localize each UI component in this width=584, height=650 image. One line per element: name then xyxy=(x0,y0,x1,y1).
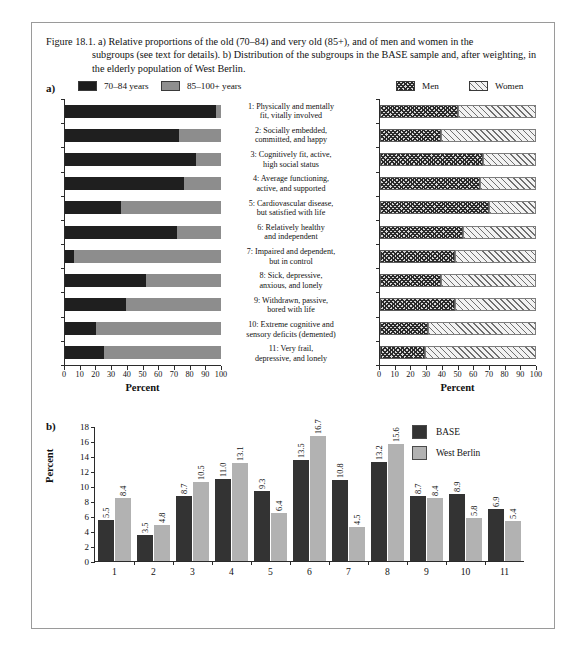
subgroup-label-text: 6: Relatively healthyand independent xyxy=(257,223,324,242)
bar-row xyxy=(65,293,221,317)
bar-group: 13.516.7 xyxy=(290,427,329,561)
x-tick-label: 10 xyxy=(76,370,84,379)
x-tick-label: 11 xyxy=(500,566,509,577)
subgroup-label-row: 4: Average functioning,active, and suppo… xyxy=(225,172,357,196)
bar-segment-70-84-years xyxy=(65,298,126,311)
x-tick xyxy=(173,561,174,565)
x-tick-label: 40 xyxy=(123,370,131,379)
bar-segment-women xyxy=(455,250,536,263)
subgroup-label-row: 2: Socially embedded,committed, and happ… xyxy=(225,123,357,147)
stacked-bar xyxy=(380,274,536,287)
y-tick-label: 16 xyxy=(69,437,89,447)
bar-group: 11.013.1 xyxy=(212,427,251,561)
stacked-bar xyxy=(380,346,536,359)
bar-base: 13.5 xyxy=(293,460,309,561)
stacked-bar xyxy=(380,226,536,239)
bar-value-label: 13.2 xyxy=(375,445,384,460)
bar-segment-men xyxy=(380,346,425,359)
bar-base: 5.5 xyxy=(98,520,114,561)
chart-sex-x-axis-title: Percent xyxy=(379,382,536,393)
bar-segment-men xyxy=(380,226,463,239)
chart-sex-composition: 0102030405060708090100 Percent xyxy=(361,99,536,379)
bar-row xyxy=(65,99,221,123)
x-tick xyxy=(290,561,291,565)
x-tick-label: 20 xyxy=(406,370,414,379)
bar-west-berlin: 6.4 xyxy=(271,513,287,561)
bar-segment-men xyxy=(380,129,441,142)
bar-value-label: 3.5 xyxy=(141,522,150,532)
bar-base: 10.8 xyxy=(332,480,348,561)
bar-west-berlin: 8.4 xyxy=(115,498,131,561)
bar-segment-women xyxy=(458,105,536,118)
legend-label-old: 70–84 years xyxy=(104,81,149,91)
bar-segment-men xyxy=(380,153,483,166)
subgroup-label-row: 9: Withdrawn, passive,bored with life xyxy=(225,293,357,317)
bar-segment-70-84-years xyxy=(65,129,179,142)
x-tick xyxy=(251,561,252,565)
bar-west-berlin: 13.1 xyxy=(232,463,248,561)
bar-west-berlin: 8.4 xyxy=(427,498,443,561)
y-tick-label: 10 xyxy=(69,482,89,492)
subgroup-label-row: 1: Physically and mentallyfit, vitally i… xyxy=(225,99,357,123)
bar-value-label: 5.4 xyxy=(509,508,518,518)
x-tick-label: 6 xyxy=(307,566,312,577)
bar-segment-85-100-years xyxy=(104,346,221,359)
bar-west-berlin: 4.8 xyxy=(154,525,170,561)
swatch-base-icon xyxy=(412,425,427,439)
bar-base: 8.9 xyxy=(449,494,465,561)
bar-row xyxy=(65,172,221,196)
x-tick-label: 80 xyxy=(186,370,194,379)
bar-group: 8.710.5 xyxy=(173,427,212,561)
bar-row xyxy=(65,317,221,341)
bar-value-label: 4.8 xyxy=(158,513,167,523)
subgroup-label-text: 8: Sick, depressive,anxious, and lonely xyxy=(259,271,322,290)
bar-west-berlin: 5.4 xyxy=(505,521,521,562)
panel-a: a) 70–84 years 85–100+ years Men Women xyxy=(32,78,554,408)
bar-row xyxy=(65,244,221,268)
stacked-bar xyxy=(65,105,221,118)
chart-subgroup-distribution: Percent 024681012141618 5.58.43.54.88.71… xyxy=(46,419,540,614)
legend-label-base: BASE xyxy=(436,427,460,437)
bar-segment-85-100-years xyxy=(216,105,221,118)
bar-base: 13.2 xyxy=(371,462,387,561)
swatch-very-old-icon xyxy=(161,81,180,91)
legend-label-west-berlin: West Berlin xyxy=(436,448,480,458)
bar-value-label: 8.9 xyxy=(453,482,462,492)
chart-sex-bars xyxy=(380,99,536,365)
subgroup-label-text: 3: Cognitively fit, active,high social s… xyxy=(250,150,331,169)
x-tick-label: 30 xyxy=(107,370,115,379)
legend-item-base: BASE xyxy=(412,425,480,439)
legend-item-old: 70–84 years xyxy=(78,81,149,91)
bar-segment-women xyxy=(463,226,536,239)
bar-row xyxy=(65,341,221,365)
bar-segment-women xyxy=(483,153,536,166)
bar-group: 9.36.4 xyxy=(251,427,290,561)
bar-segment-85-100-years xyxy=(179,129,221,142)
panel-b: b) Percent 024681012141618 5.58.43.54.88… xyxy=(32,419,554,619)
subgroup-label-row: 10: Extreme cognitive andsensory deficit… xyxy=(225,317,357,341)
bar-group: 5.58.4 xyxy=(95,427,134,561)
y-tick-label: 18 xyxy=(69,422,89,432)
x-tick xyxy=(368,561,369,565)
bar-west-berlin: 10.5 xyxy=(193,482,209,561)
stacked-bar xyxy=(380,129,536,142)
subgroup-label-text: 1: Physically and mentallyfit, vitally i… xyxy=(248,102,334,121)
bar-group: 13.215.6 xyxy=(368,427,407,561)
x-tick-label: 5 xyxy=(268,566,273,577)
y-tick-label: 0 xyxy=(69,557,89,567)
stacked-bar xyxy=(380,177,536,190)
stacked-bar xyxy=(65,226,221,239)
subgroup-label-row: 3: Cognitively fit, active,high social s… xyxy=(225,148,357,172)
bar-value-label: 6.9 xyxy=(492,497,501,507)
bar-west-berlin: 5.8 xyxy=(466,518,482,562)
x-tick-label: 4 xyxy=(229,566,234,577)
bar-group: 10.84.5 xyxy=(329,427,368,561)
bar-value-label: 15.6 xyxy=(392,427,401,442)
bar-value-label: 9.3 xyxy=(258,479,267,489)
stacked-bar xyxy=(65,153,221,166)
bar-segment-70-84-years xyxy=(65,201,121,214)
bar-segment-men xyxy=(380,274,441,287)
subgroup-label-text: 2: Socially embedded,committed, and happ… xyxy=(255,126,327,145)
bar-value-label: 13.1 xyxy=(236,446,245,461)
x-tick-label: 70 xyxy=(170,370,178,379)
